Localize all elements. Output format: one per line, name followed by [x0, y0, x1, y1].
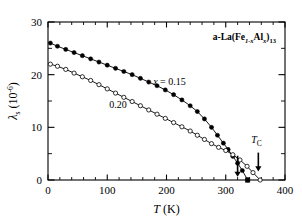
- data-point: [224, 148, 228, 152]
- data-point: [138, 104, 142, 108]
- data-point: [89, 57, 93, 61]
- data-point: [163, 116, 167, 120]
- data-point: [238, 158, 242, 162]
- data-point: [209, 125, 213, 129]
- data-point: [105, 63, 109, 67]
- y-tick-label: 30: [31, 16, 43, 28]
- data-point: [97, 60, 101, 64]
- data-point: [89, 78, 93, 82]
- data-point: [97, 83, 101, 87]
- data-point: [55, 44, 59, 48]
- data-point: [55, 64, 59, 68]
- data-point: [188, 104, 192, 108]
- x-tick-label: 400: [277, 184, 294, 196]
- data-point: [231, 153, 235, 157]
- y-tick-label: 20: [31, 69, 43, 81]
- series-label: 0.20: [109, 99, 127, 110]
- data-point: [202, 137, 206, 141]
- data-point: [72, 50, 76, 54]
- x-tick-label: 0: [45, 184, 51, 196]
- curie-point-marker: [245, 178, 249, 182]
- series-label: x = 0.15: [152, 76, 186, 87]
- data-point: [195, 109, 199, 113]
- data-point: [163, 88, 167, 92]
- data-point: [130, 73, 134, 77]
- x-axis-title: T (K): [153, 202, 179, 216]
- data-point: [258, 178, 262, 182]
- data-point: [215, 133, 219, 137]
- data-point: [209, 142, 213, 146]
- data-point: [217, 145, 221, 149]
- data-point: [195, 133, 199, 137]
- data-point: [113, 91, 117, 95]
- x-tick-label: 100: [99, 184, 116, 196]
- data-point: [48, 41, 52, 45]
- data-point: [80, 75, 84, 79]
- data-point: [138, 76, 142, 80]
- x-tick-label: 200: [158, 184, 175, 196]
- y-tick-label: 10: [31, 121, 43, 133]
- data-point: [80, 54, 84, 58]
- strain-vs-temperature-chart: 0100200300400 0102030 TC x = 0.150.20 T …: [0, 0, 302, 222]
- data-point: [48, 62, 52, 66]
- data-point: [172, 120, 176, 124]
- data-point: [221, 141, 225, 145]
- data-point: [147, 80, 151, 84]
- data-point: [202, 117, 206, 121]
- data-point: [130, 99, 134, 103]
- data-point: [172, 93, 176, 97]
- data-point: [251, 171, 255, 175]
- x-tick-label: 300: [218, 184, 235, 196]
- data-point: [122, 69, 126, 73]
- data-point: [155, 112, 159, 116]
- y-tick-label: 0: [37, 174, 43, 186]
- data-point: [113, 66, 117, 70]
- data-point: [240, 168, 244, 172]
- data-point: [105, 87, 109, 91]
- data-point: [147, 108, 151, 112]
- data-point: [64, 47, 68, 51]
- data-point: [245, 164, 249, 168]
- data-point: [72, 71, 76, 75]
- data-point: [180, 125, 184, 129]
- data-point: [180, 98, 184, 102]
- data-point: [64, 67, 68, 71]
- data-point: [188, 129, 192, 133]
